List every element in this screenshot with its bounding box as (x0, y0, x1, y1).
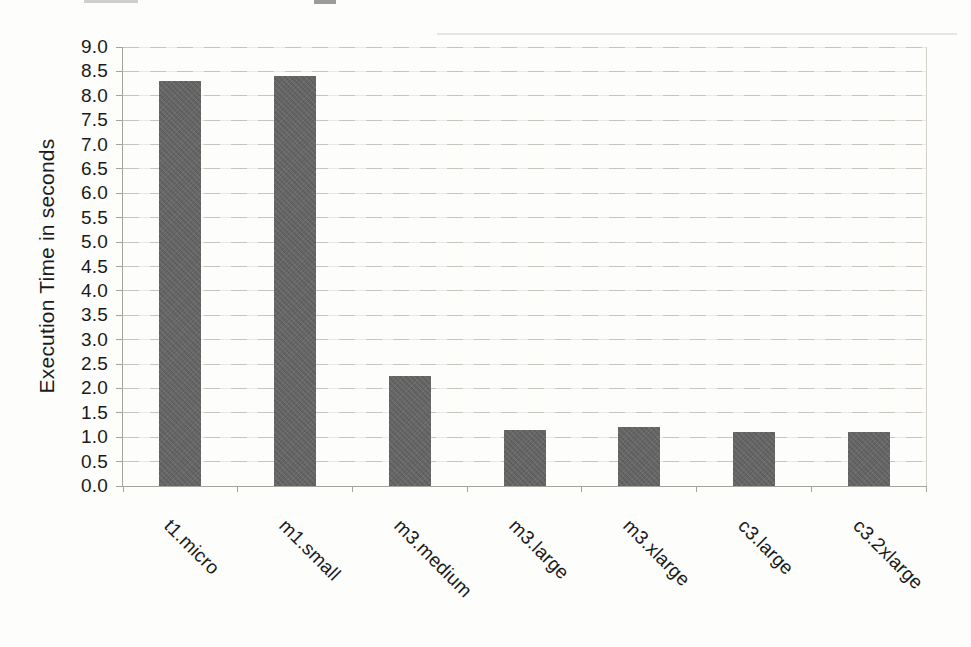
y-axis-tick (116, 168, 123, 169)
y-tick-label: 2.0 (44, 376, 108, 400)
bar-chart-figure: Execution Time in seconds 0.00.51.01.52.… (0, 0, 971, 647)
y-axis-tick (116, 315, 123, 316)
y-tick-label: 5.0 (44, 230, 108, 254)
y-axis-tick (116, 339, 123, 340)
gridline (123, 388, 926, 389)
y-axis-tick (116, 71, 123, 72)
gridline (123, 71, 926, 72)
gridline (123, 412, 926, 413)
gridline (123, 266, 926, 267)
y-tick-label: 9.0 (44, 35, 108, 59)
gridline (123, 168, 926, 169)
gridline (123, 315, 926, 316)
y-tick-label: 7.0 (44, 133, 108, 157)
bar (848, 432, 890, 486)
bar (733, 432, 775, 486)
y-tick-label: 8.5 (44, 59, 108, 83)
y-tick-label: 3.0 (44, 328, 108, 352)
y-tick-label: 5.5 (44, 206, 108, 230)
bar (618, 427, 660, 486)
y-axis-tick (116, 364, 123, 365)
y-axis-tick (116, 242, 123, 243)
y-tick-label: 4.0 (44, 279, 108, 303)
x-category-label: t1.micro (160, 515, 224, 579)
y-tick-label: 0.0 (44, 474, 108, 498)
y-tick-label: 7.5 (44, 108, 108, 132)
bar (159, 81, 201, 486)
x-axis-tick (237, 486, 238, 492)
y-tick-label: 1.0 (44, 425, 108, 449)
y-axis-tick (116, 266, 123, 267)
y-tick-label: 6.0 (44, 181, 108, 205)
x-axis-tick (467, 486, 468, 492)
x-axis-tick (926, 486, 927, 492)
scan-artifact (84, 0, 138, 3)
gridline (123, 120, 926, 121)
y-tick-label: 4.5 (44, 255, 108, 279)
y-axis-tick (116, 120, 123, 121)
y-tick-label: 0.5 (44, 450, 108, 474)
y-axis-tick (116, 437, 123, 438)
x-category-label: m3.large (504, 515, 573, 584)
y-axis-tick (116, 47, 123, 48)
x-category-label: c3.large (733, 515, 797, 579)
y-axis-tick (116, 217, 123, 218)
gridline (123, 47, 926, 48)
gridline (123, 217, 926, 218)
gridline (123, 339, 926, 340)
x-axis-tick (123, 486, 124, 492)
y-axis-tick (116, 461, 123, 462)
y-tick-label: 8.0 (44, 84, 108, 108)
x-category-label: m1.small (275, 515, 345, 585)
gridline (123, 364, 926, 365)
gridline (123, 290, 926, 291)
y-axis-tick (116, 290, 123, 291)
y-axis-tick (116, 412, 123, 413)
y-tick-label: 1.5 (44, 401, 108, 425)
y-axis-tick (116, 388, 123, 389)
y-axis-tick (116, 144, 123, 145)
gridline (123, 144, 926, 145)
x-category-label: m3.xlarge (619, 515, 695, 591)
scan-artifact (314, 0, 336, 4)
x-category-label: m3.medium (389, 515, 476, 602)
y-tick-label: 3.5 (44, 303, 108, 327)
x-axis-tick (581, 486, 582, 492)
bar (504, 430, 546, 486)
bar (389, 376, 431, 486)
x-category-label: c3.2xlarge (848, 515, 927, 594)
scan-artifact (437, 33, 957, 35)
y-tick-label: 2.5 (44, 352, 108, 376)
x-axis-tick (696, 486, 697, 492)
gridline (123, 242, 926, 243)
bar (274, 76, 316, 486)
plot-area (122, 47, 927, 487)
y-axis-tick (116, 95, 123, 96)
gridline (123, 95, 926, 96)
x-axis-tick (811, 486, 812, 492)
y-tick-label: 6.5 (44, 157, 108, 181)
gridline (123, 193, 926, 194)
x-axis-tick (352, 486, 353, 492)
y-axis-tick (116, 193, 123, 194)
